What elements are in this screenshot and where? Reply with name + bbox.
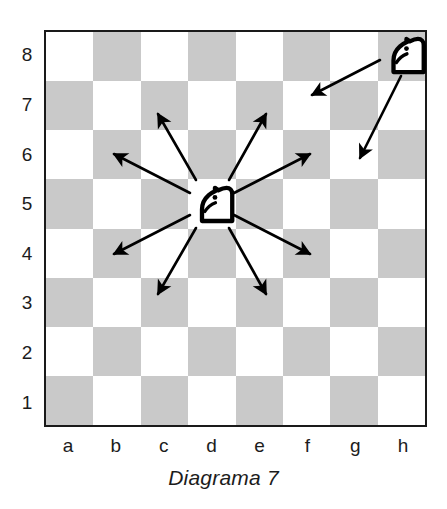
square-f1[interactable]	[283, 376, 330, 425]
square-d5[interactable]	[188, 179, 235, 228]
square-g6[interactable]	[330, 130, 377, 179]
square-g2[interactable]	[330, 327, 377, 376]
square-f6[interactable]	[283, 130, 330, 179]
square-h5[interactable]	[378, 179, 425, 228]
square-a5[interactable]	[46, 179, 93, 228]
square-b8[interactable]	[93, 32, 140, 81]
square-b3[interactable]	[93, 278, 140, 327]
square-e3[interactable]	[236, 278, 283, 327]
square-e6[interactable]	[236, 130, 283, 179]
square-a1[interactable]	[46, 376, 93, 425]
square-h4[interactable]	[378, 229, 425, 278]
square-c1[interactable]	[141, 376, 188, 425]
chessboard-squares	[44, 30, 427, 427]
square-c3[interactable]	[141, 278, 188, 327]
square-d1[interactable]	[188, 376, 235, 425]
rank-label-4: 4	[14, 229, 40, 279]
square-h3[interactable]	[378, 278, 425, 327]
square-f2[interactable]	[283, 327, 330, 376]
file-labels: a b c d e f g h	[44, 430, 427, 460]
rank-label-5: 5	[14, 179, 40, 229]
file-label-a: a	[44, 430, 92, 460]
square-c5[interactable]	[141, 179, 188, 228]
square-b2[interactable]	[93, 327, 140, 376]
file-label-e: e	[236, 430, 284, 460]
square-e8[interactable]	[236, 32, 283, 81]
square-g4[interactable]	[330, 229, 377, 278]
square-h1[interactable]	[378, 376, 425, 425]
rank-label-2: 2	[14, 328, 40, 378]
rank-label-3: 3	[14, 278, 40, 328]
square-a3[interactable]	[46, 278, 93, 327]
square-c8[interactable]	[141, 32, 188, 81]
diagram-caption: Diagrama 7	[0, 466, 447, 490]
square-g5[interactable]	[330, 179, 377, 228]
rank-label-1: 1	[14, 377, 40, 427]
square-g8[interactable]	[330, 32, 377, 81]
square-e1[interactable]	[236, 376, 283, 425]
file-label-b: b	[92, 430, 140, 460]
square-c2[interactable]	[141, 327, 188, 376]
square-a2[interactable]	[46, 327, 93, 376]
square-h7[interactable]	[378, 81, 425, 130]
rank-label-6: 6	[14, 129, 40, 179]
square-b4[interactable]	[93, 229, 140, 278]
square-a6[interactable]	[46, 130, 93, 179]
rank-label-7: 7	[14, 80, 40, 130]
file-label-d: d	[188, 430, 236, 460]
square-a7[interactable]	[46, 81, 93, 130]
square-d6[interactable]	[188, 130, 235, 179]
square-e4[interactable]	[236, 229, 283, 278]
file-label-c: c	[140, 430, 188, 460]
square-b7[interactable]	[93, 81, 140, 130]
square-g1[interactable]	[330, 376, 377, 425]
square-b6[interactable]	[93, 130, 140, 179]
square-d8[interactable]	[188, 32, 235, 81]
square-a8[interactable]	[46, 32, 93, 81]
square-e2[interactable]	[236, 327, 283, 376]
square-g3[interactable]	[330, 278, 377, 327]
file-label-g: g	[331, 430, 379, 460]
square-d2[interactable]	[188, 327, 235, 376]
square-h8[interactable]	[378, 32, 425, 81]
file-label-h: h	[379, 430, 427, 460]
square-h6[interactable]	[378, 130, 425, 179]
square-d3[interactable]	[188, 278, 235, 327]
square-c4[interactable]	[141, 229, 188, 278]
square-f4[interactable]	[283, 229, 330, 278]
chess-diagram: 8 7 6 5 4 3 2 1	[0, 0, 447, 509]
rank-labels: 8 7 6 5 4 3 2 1	[14, 30, 40, 427]
square-b1[interactable]	[93, 376, 140, 425]
square-f8[interactable]	[283, 32, 330, 81]
square-a4[interactable]	[46, 229, 93, 278]
chessboard	[44, 30, 427, 427]
square-h2[interactable]	[378, 327, 425, 376]
square-e5[interactable]	[236, 179, 283, 228]
rank-label-8: 8	[14, 30, 40, 80]
square-c7[interactable]	[141, 81, 188, 130]
square-d7[interactable]	[188, 81, 235, 130]
file-label-f: f	[283, 430, 331, 460]
square-g7[interactable]	[330, 81, 377, 130]
square-c6[interactable]	[141, 130, 188, 179]
square-f7[interactable]	[283, 81, 330, 130]
square-b5[interactable]	[93, 179, 140, 228]
square-d4[interactable]	[188, 229, 235, 278]
square-e7[interactable]	[236, 81, 283, 130]
square-f5[interactable]	[283, 179, 330, 228]
square-f3[interactable]	[283, 278, 330, 327]
